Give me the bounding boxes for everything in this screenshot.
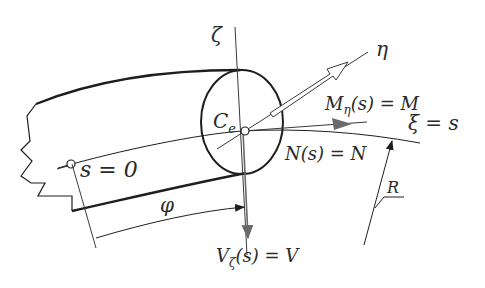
beam-break-line — [21, 104, 72, 211]
centroid-label: Ce — [213, 109, 236, 136]
xi-axis-label: ξ = s — [408, 111, 459, 135]
zeta-axis-label: ζ — [211, 23, 223, 47]
moment-label: Mη(s) = M — [324, 93, 419, 117]
curved-beam-diagram: ζ η Ce Mη(s) = M ξ = s N(s) = N Vζ(s) = … — [0, 0, 485, 288]
normal-force-label: N(s) = N — [284, 143, 368, 164]
eta-axis-label: η — [376, 37, 388, 61]
normal-force-arrowhead — [332, 118, 352, 130]
centroid-point — [241, 127, 249, 135]
origin-point — [67, 160, 75, 168]
shear-force-label: Vζ(s) = V — [216, 245, 300, 270]
origin-label: s = 0 — [80, 157, 138, 182]
zeta-axis-line — [235, 27, 247, 255]
radius-label: R — [386, 178, 399, 197]
beam-top-edge — [36, 70, 240, 104]
radius-label-leader — [375, 197, 404, 208]
angle-phi-label: φ — [160, 193, 174, 217]
